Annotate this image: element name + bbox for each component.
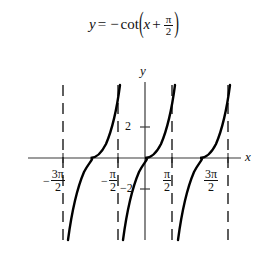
y-axis-label: y bbox=[140, 64, 146, 77]
equation-fraction-numerator: π bbox=[164, 14, 174, 25]
x-tick-label--pi-2: −π2 bbox=[92, 168, 126, 194]
equation-plus-sign: + bbox=[150, 16, 162, 32]
x-tick-label-pi-2-numerator: π bbox=[163, 168, 171, 180]
figure-container: y=−cot(x+π2) x bbox=[0, 0, 268, 255]
equation-equals-sign: = bbox=[96, 16, 108, 32]
x-tick-label--3pi-2-numerator: 3π bbox=[51, 168, 65, 180]
equation-open-paren: ( bbox=[139, 10, 144, 39]
x-tick-label--pi-2-fraction: π2 bbox=[109, 168, 117, 194]
x-tick-label--pi-2-numerator: π bbox=[109, 168, 117, 180]
y-tick-label-2: 2 bbox=[125, 120, 131, 132]
curve-branch-center bbox=[123, 85, 175, 240]
x-tick-label--pi-2-sign: − bbox=[101, 175, 109, 187]
x-tick-label--3pi-2-denominator: 2 bbox=[51, 180, 65, 193]
equation-title: y=−cot(x+π2) bbox=[0, 14, 268, 37]
equation-pi-over-two-fraction: π2 bbox=[164, 14, 174, 37]
equation-close-paren: ) bbox=[174, 10, 179, 39]
equation-y-variable: y bbox=[89, 16, 96, 32]
x-tick-label-3pi-2-numerator: 3π bbox=[204, 168, 218, 180]
plot-area: x y 2 −2 −3π2 −π2 π2 3π2 bbox=[0, 58, 268, 255]
x-tick-label-pi-2-fraction: π2 bbox=[163, 168, 171, 194]
x-tick-label-3pi-2-fraction: 3π2 bbox=[204, 168, 218, 194]
x-tick-label-3pi-2-denominator: 2 bbox=[204, 180, 218, 193]
equation-cot-function: cot bbox=[121, 16, 139, 32]
x-tick-label-3pi-2: 3π2 bbox=[195, 168, 227, 194]
equation-minus-sign: − bbox=[108, 16, 120, 32]
x-tick-label--3pi-2: −3π2 bbox=[32, 168, 76, 194]
x-tick-label--3pi-2-fraction: 3π2 bbox=[51, 168, 65, 194]
x-tick-label--3pi-2-sign: − bbox=[43, 175, 51, 187]
x-tick-label--pi-2-denominator: 2 bbox=[109, 180, 117, 193]
x-tick-label-pi-2-denominator: 2 bbox=[163, 180, 171, 193]
curve-branch-right bbox=[178, 85, 230, 240]
x-tick-label-pi-2: π2 bbox=[156, 168, 178, 194]
x-axis-label: x bbox=[245, 150, 251, 163]
equation-fraction-denominator: 2 bbox=[164, 25, 174, 37]
curve-branch-left bbox=[68, 85, 120, 240]
graph-svg bbox=[0, 58, 268, 255]
